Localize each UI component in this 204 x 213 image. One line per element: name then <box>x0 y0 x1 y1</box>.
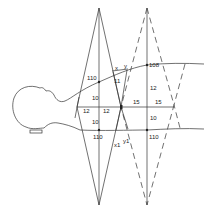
gap-wedge-upper <box>113 70 127 107</box>
label-top-right-ssd: 108 <box>149 62 160 68</box>
beam-diagram: 110 108 110 110 10 10 12 12 15 15 12 10 … <box>0 0 204 213</box>
label-x1: x1 <box>114 142 121 148</box>
head-outline <box>13 86 80 130</box>
label-bottom-right-ssd: 110 <box>149 134 159 140</box>
point-left-bottom <box>98 129 100 131</box>
label-left-width-b: 12 <box>103 108 110 114</box>
point-left-top <box>98 81 100 83</box>
point-right-top <box>146 64 148 66</box>
label-gap-top: 11 <box>114 78 121 84</box>
head-rest-icon <box>30 130 42 133</box>
label-x: x <box>115 65 118 71</box>
right-edge-dashed <box>174 64 185 128</box>
label-y1: y1 <box>123 138 130 144</box>
left-field-tick <box>75 97 79 118</box>
label-bottom-left-ssd: 110 <box>93 134 103 140</box>
label-left-width-a: 12 <box>83 108 90 114</box>
label-right-width-a: 15 <box>133 99 140 105</box>
body-upper-contour <box>65 63 204 101</box>
label-right-width-b: 15 <box>155 99 162 105</box>
label-top-left-ssd: 110 <box>87 75 97 81</box>
junction-point <box>120 105 123 109</box>
label-upper-right-depth: 12 <box>150 85 157 91</box>
right-beam-diamond <box>121 8 174 205</box>
label-upper-left-depth: 10 <box>92 95 99 101</box>
label-lower-left-depth: 10 <box>92 119 99 125</box>
label-y: y <box>124 63 127 69</box>
label-lower-right-depth: 10 <box>150 115 157 121</box>
point-right-bottom <box>146 129 148 131</box>
